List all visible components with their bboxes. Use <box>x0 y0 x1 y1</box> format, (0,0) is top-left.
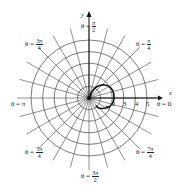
angle-label-7pi-over-4: θ = 7π4 <box>136 146 154 159</box>
radial-line-120deg <box>53 36 89 98</box>
radial-line-210deg <box>27 98 89 134</box>
angle-label-3pi-over-2: θ = 3π2 <box>81 170 99 183</box>
radial-line-330deg <box>89 98 151 134</box>
y-axis-arrow-icon <box>87 11 92 17</box>
angle-label-0: θ = 0 <box>157 101 171 108</box>
radial-line-240deg <box>53 98 89 160</box>
radial-line-30deg <box>89 62 151 98</box>
radial-line-225deg <box>38 98 89 149</box>
coordinate-axes <box>87 11 164 101</box>
angle-label-pi: θ = π <box>11 101 25 108</box>
angle-label-3pi-over-4: θ = 3π4 <box>25 38 43 51</box>
radial-line-45deg <box>89 47 140 98</box>
origin-point <box>87 96 91 100</box>
radius-tick-2: 2 <box>112 100 115 107</box>
radial-line-135deg <box>38 47 89 98</box>
angle-label-pi-over-2: θ = π2 <box>81 20 96 33</box>
radius-tick-5: 5 <box>146 100 149 107</box>
x-axis-label: x <box>169 89 172 96</box>
radius-tick-3: 3 <box>123 100 126 107</box>
radial-line-150deg <box>27 62 89 98</box>
radius-tick-4: 4 <box>135 100 138 107</box>
y-axis-label: y <box>81 11 84 18</box>
angle-label-pi-over-4: θ = π4 <box>136 38 151 51</box>
angle-label-5pi-over-4: θ = 5π4 <box>25 146 43 159</box>
